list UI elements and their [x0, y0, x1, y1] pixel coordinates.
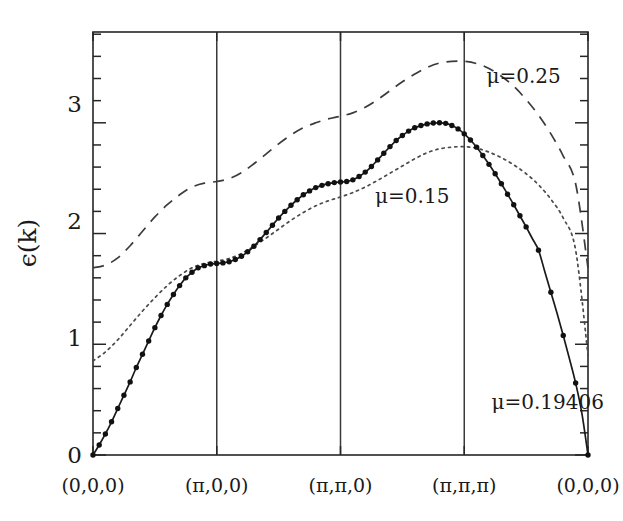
y-tick-label-2: 2	[67, 208, 82, 234]
data-point-marker	[585, 452, 590, 457]
data-point-marker	[437, 120, 442, 125]
data-point-marker	[90, 452, 95, 457]
data-point-marker	[573, 380, 578, 385]
data-point-marker	[492, 171, 497, 176]
data-point-marker	[202, 263, 207, 268]
data-point-marker	[257, 237, 262, 242]
data-point-marker	[332, 180, 337, 185]
x-tick-label-1: (π,0,0)	[185, 474, 249, 496]
data-point-marker	[480, 153, 485, 158]
data-point-marker	[264, 230, 269, 235]
data-point-marker	[356, 174, 361, 179]
data-point-marker	[189, 270, 194, 275]
data-point-marker	[214, 261, 219, 266]
annotation-mu-025: μ=0.25	[487, 64, 561, 88]
data-point-marker	[381, 151, 386, 156]
x-tick-label-2: (π,π,0)	[309, 474, 373, 496]
data-point-marker	[294, 197, 299, 202]
data-point-marker	[270, 223, 275, 228]
data-point-marker	[127, 379, 132, 384]
data-point-marker	[158, 313, 163, 318]
data-point-marker	[208, 261, 213, 266]
data-point-marker	[387, 144, 392, 149]
data-point-marker	[233, 257, 238, 262]
y-axis-title: ϵ(k)	[13, 219, 42, 268]
data-point-marker	[165, 302, 170, 307]
data-point-marker	[301, 192, 306, 197]
y-tick-label-0: 0	[67, 442, 82, 468]
data-point-marker	[468, 137, 473, 142]
data-point-marker	[313, 185, 318, 190]
x-tick-label-0: (0,0,0)	[61, 474, 124, 496]
data-point-marker	[363, 169, 368, 174]
data-point-marker	[140, 352, 145, 357]
data-point-marker	[486, 162, 491, 167]
data-point-marker	[548, 290, 553, 295]
data-point-marker	[282, 209, 287, 214]
data-point-marker	[406, 128, 411, 133]
data-point-marker	[443, 121, 448, 126]
data-point-marker	[195, 265, 200, 270]
annotation-mu-015: μ=0.15	[375, 184, 449, 208]
data-point-marker	[344, 179, 349, 184]
data-point-marker	[449, 123, 454, 128]
y-tick-label-3: 3	[67, 91, 82, 117]
data-point-marker	[375, 157, 380, 162]
data-point-marker	[418, 123, 423, 128]
data-point-marker	[183, 275, 188, 280]
data-point-marker	[369, 164, 374, 169]
figure-container: 0 1 2 3 ϵ(k) (0,0,0) (π,0,0) (π,π,0) (π,…	[0, 0, 623, 521]
data-point-marker	[325, 181, 330, 186]
data-point-marker	[103, 431, 108, 436]
data-point-marker	[536, 247, 541, 252]
data-point-marker	[350, 177, 355, 182]
data-point-marker	[171, 292, 176, 297]
data-point-marker	[152, 325, 157, 330]
data-point-marker	[245, 249, 250, 254]
data-point-marker	[412, 125, 417, 130]
data-point-marker	[499, 181, 504, 186]
data-point-marker	[505, 192, 510, 197]
data-point-marker	[319, 183, 324, 188]
data-point-marker	[96, 442, 101, 447]
data-point-marker	[393, 138, 398, 143]
data-point-marker	[239, 254, 244, 259]
dispersion-plot: 0 1 2 3 ϵ(k) (0,0,0) (π,0,0) (π,π,0) (π,…	[0, 0, 623, 521]
vertical-gridlines	[217, 32, 465, 455]
data-point-marker	[431, 120, 436, 125]
data-point-marker	[121, 393, 126, 398]
data-point-marker	[455, 126, 460, 131]
data-point-marker	[109, 419, 114, 424]
data-point-marker	[134, 365, 139, 370]
data-point-marker	[511, 202, 516, 207]
data-point-marker	[251, 244, 256, 249]
data-point-marker	[400, 133, 405, 138]
data-point-marker	[561, 333, 566, 338]
data-point-marker	[462, 131, 467, 136]
data-point-marker	[288, 203, 293, 208]
data-point-marker	[424, 121, 429, 126]
x-tick-labels: (0,0,0) (π,0,0) (π,π,0) (π,π,π) (0,0,0)	[61, 474, 619, 496]
data-point-marker	[146, 338, 151, 343]
x-tick-label-3: (π,π,π)	[432, 474, 496, 496]
data-point-marker	[276, 215, 281, 220]
annotation-mu-019406: μ=0.19406	[492, 390, 604, 414]
data-point-marker	[220, 260, 225, 265]
data-point-marker	[338, 179, 343, 184]
data-point-marker	[115, 406, 120, 411]
data-point-marker	[474, 144, 479, 149]
y-tick-labels: 0 1 2 3	[67, 91, 82, 468]
data-point-marker	[177, 283, 182, 288]
data-point-marker	[307, 188, 312, 193]
data-point-marker	[517, 213, 522, 218]
x-tick-label-4: (0,0,0)	[556, 474, 619, 496]
data-point-marker	[523, 224, 528, 229]
data-point-marker	[226, 259, 231, 264]
y-tick-label-1: 1	[67, 325, 82, 351]
